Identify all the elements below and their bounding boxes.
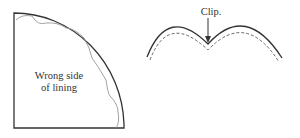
lining-label-line1: Wrong side	[24, 70, 94, 82]
diagram-canvas	[0, 0, 300, 138]
seam-arc-solid	[147, 26, 282, 58]
lining-label-line2: of lining	[24, 82, 94, 94]
lining-label: Wrong side of lining	[24, 70, 94, 94]
clip-label: Clip.	[196, 6, 226, 18]
